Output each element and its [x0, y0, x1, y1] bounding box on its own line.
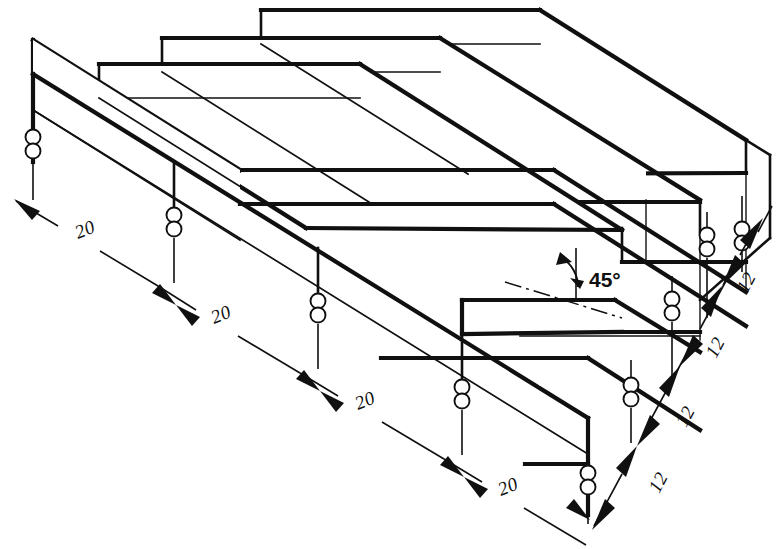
double-circle-break [581, 480, 596, 495]
double-circle-break [26, 130, 41, 145]
double-circle-break [167, 222, 182, 237]
technical-drawing-canvas: 45° [0, 0, 778, 549]
isometric-serrated-block-svg: 45° [0, 0, 778, 549]
angle-arrow-head-2 [570, 278, 584, 289]
dimension-label-12: 12 [701, 333, 729, 360]
dimension-label-20: 20 [72, 216, 98, 243]
double-circle-break [624, 392, 639, 407]
double-circle-break [700, 228, 715, 243]
double-circle-break [581, 466, 596, 481]
double-circle-break [665, 306, 680, 321]
dimension-label-20: 20 [495, 473, 521, 500]
double-circle-break [167, 208, 182, 223]
double-circle-break [624, 378, 639, 393]
dimension-label-12: 12 [732, 268, 760, 295]
dimension-label-20: 20 [208, 301, 234, 328]
double-circle-break [665, 292, 680, 307]
double-circle-break [26, 144, 41, 159]
block-geometry [33, 10, 770, 515]
angle-label: 45° [589, 268, 621, 291]
double-circle-break [455, 380, 470, 395]
double-circle-break [311, 308, 326, 323]
dimension-label-12: 12 [644, 468, 672, 495]
double-circle-break [311, 294, 326, 309]
double-circle-break [455, 394, 470, 409]
dimension-label-20: 20 [352, 387, 378, 414]
double-circle-break [700, 242, 715, 257]
